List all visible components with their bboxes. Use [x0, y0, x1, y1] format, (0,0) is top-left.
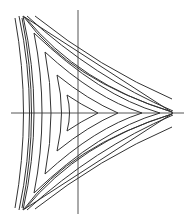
level-curve-outer-top-2 — [35, 16, 172, 99]
level-curve-separatrix-b — [23, 113, 173, 210]
level-curve-outer-bottom-2 — [35, 127, 172, 209]
level-curve-outer-bottom-1 — [27, 115, 173, 210]
contour-plot-svg — [0, 0, 184, 223]
level-curve-separatrix-a — [23, 16, 173, 113]
level-curve-outer-top-1 — [27, 16, 173, 111]
contour-plot — [0, 0, 184, 223]
